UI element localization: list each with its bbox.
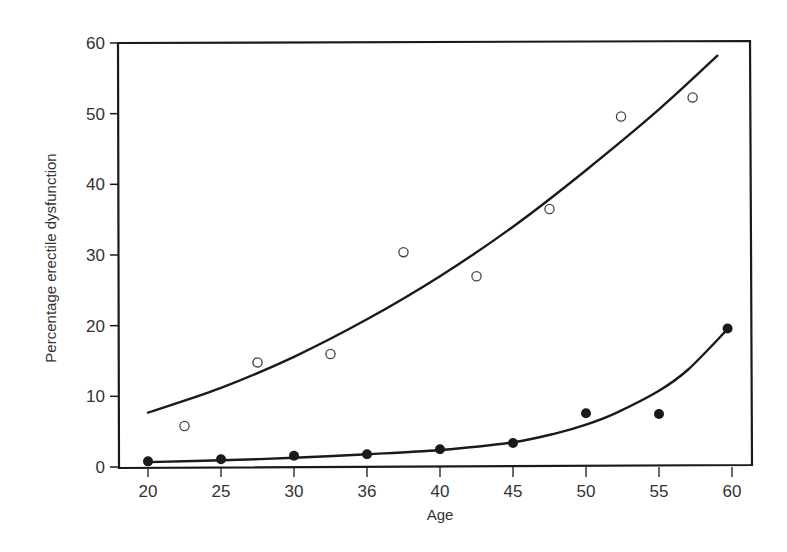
scatter-chart: 0102030405060 202530364045505560 Age Per… xyxy=(0,0,787,552)
open-circle-marker xyxy=(688,93,697,102)
open-circle-marker xyxy=(326,349,335,358)
filled-circle-marker xyxy=(723,323,733,333)
y-axis-title: Percentage erectile dysfunction xyxy=(42,153,59,362)
open-circles-fit-curve xyxy=(148,56,717,413)
y-tick-label: 20 xyxy=(86,317,105,336)
x-tick-label: 20 xyxy=(139,482,158,501)
y-tick-label: 10 xyxy=(86,387,105,406)
x-tick-label: 60 xyxy=(723,482,742,501)
open-circle-marker xyxy=(253,358,262,367)
open-circle-marker xyxy=(472,272,481,281)
y-tick-label: 50 xyxy=(86,105,105,124)
x-tick-label: 25 xyxy=(212,482,231,501)
filled-circle-marker xyxy=(289,451,299,461)
x-tick-label: 50 xyxy=(577,482,596,501)
open-circle-marker xyxy=(545,204,554,213)
y-tick-label: 0 xyxy=(96,458,105,477)
x-tick-label: 45 xyxy=(504,482,523,501)
plot-frame xyxy=(118,41,752,468)
x-tick-label: 55 xyxy=(650,482,669,501)
filled-circle-marker xyxy=(581,408,591,418)
x-axis-title: Age xyxy=(427,506,454,523)
y-tick-label: 40 xyxy=(86,175,105,194)
filled-circles-fit-curve xyxy=(148,329,728,462)
filled-circle-marker xyxy=(143,456,153,466)
filled-circle-marker xyxy=(216,454,226,464)
y-axis: 0102030405060 xyxy=(86,34,119,477)
data-markers xyxy=(143,93,733,467)
open-circle-marker xyxy=(616,112,625,121)
plot-border xyxy=(118,41,752,468)
open-circle-marker xyxy=(180,421,189,430)
y-tick-label: 60 xyxy=(86,34,105,53)
filled-circle-marker xyxy=(362,449,372,459)
filled-circle-marker xyxy=(435,444,445,454)
open-circle-marker xyxy=(399,248,408,257)
y-tick-label: 30 xyxy=(86,246,105,265)
filled-circle-marker xyxy=(654,409,664,419)
filled-circle-marker xyxy=(508,438,518,448)
x-tick-label: 30 xyxy=(285,482,304,501)
x-tick-label: 36 xyxy=(358,482,377,501)
fit-curves xyxy=(148,56,728,462)
x-axis: 202530364045505560 xyxy=(139,467,742,501)
x-tick-label: 40 xyxy=(431,482,450,501)
